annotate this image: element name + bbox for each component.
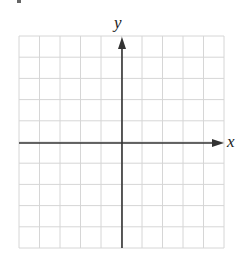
x-axis-arrow-icon <box>212 139 224 147</box>
y-axis-arrow-icon <box>118 37 126 49</box>
coordinate-plane: y x <box>0 0 236 258</box>
x-axis-label: x <box>227 133 235 150</box>
axes <box>19 37 224 248</box>
grid-graphic <box>0 0 236 258</box>
y-axis-label: y <box>114 14 122 31</box>
